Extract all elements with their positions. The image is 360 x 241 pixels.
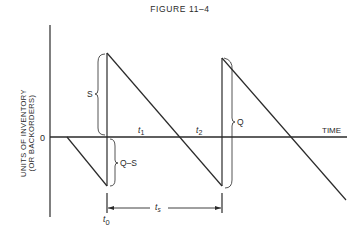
inventory-diagram: 0 S Q–S Q TIME t1 t2 t0 ts bbox=[0, 0, 360, 241]
q-minus-s-label: Q–S bbox=[120, 158, 137, 168]
ts-arrowhead-right bbox=[215, 206, 221, 210]
t2-label: t2 bbox=[196, 125, 202, 136]
backorder-ramp-1 bbox=[67, 137, 107, 186]
t0-label: t0 bbox=[103, 214, 110, 227]
s-brace bbox=[95, 54, 105, 135]
s-label: S bbox=[87, 89, 93, 99]
time-label: TIME bbox=[322, 126, 341, 135]
zero-label: 0 bbox=[40, 133, 45, 143]
ts-arrowhead-left bbox=[108, 206, 114, 210]
t1-label: t1 bbox=[138, 125, 144, 136]
ts-label: ts bbox=[155, 202, 161, 213]
q-label: Q bbox=[237, 117, 244, 127]
q-minus-s-brace bbox=[110, 139, 118, 186]
q-brace bbox=[224, 58, 235, 188]
